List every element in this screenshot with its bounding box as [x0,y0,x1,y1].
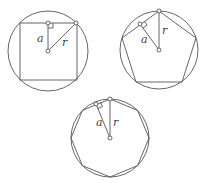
apothem-label: a [141,33,148,46]
vertex-dot [74,21,78,25]
center-dot [108,136,112,140]
inscribed-polygons-diagram: a r a r a r [0,0,206,183]
vertex-dot [108,97,112,101]
pentagon-diagram [120,9,198,89]
center-dot [157,48,161,52]
radius-label: r [162,24,168,37]
octagon-diagram [71,97,149,177]
square-diagram [8,11,88,91]
apothem-label: a [37,32,44,45]
radius-label: r [113,116,119,129]
midpoint-dot [94,102,98,106]
radius-label: r [62,36,68,49]
apothem-label: a [96,116,103,129]
midpoint-dot [138,22,142,26]
center-dot [46,49,50,53]
vertex-dot [157,9,161,13]
midpoint-dot [46,21,50,25]
